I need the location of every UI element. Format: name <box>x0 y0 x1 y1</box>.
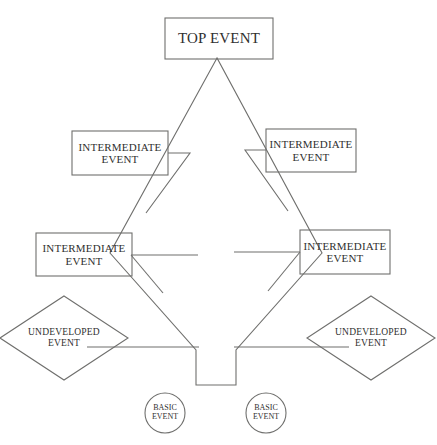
node-shape-intermediate-upper-left[interactable] <box>72 131 168 175</box>
node-shape-intermediate-upper-right[interactable] <box>266 129 356 172</box>
connector-lower-left-diagonal <box>131 255 163 293</box>
connector-lower-right-diagonal <box>268 252 300 291</box>
node-shape-undeveloped-left[interactable] <box>0 296 128 380</box>
connector-main-outline <box>110 58 322 385</box>
node-shape-undeveloped-right[interactable] <box>307 296 435 380</box>
diagram-canvas <box>0 0 437 445</box>
node-shape-top-event[interactable] <box>165 18 273 59</box>
node-shape-basic-right[interactable] <box>246 393 286 433</box>
fault-tree-diagram: TOP EVENT INTERMEDIATE EVENT INTERMEDIAT… <box>0 0 437 445</box>
node-shape-basic-left[interactable] <box>145 393 185 433</box>
